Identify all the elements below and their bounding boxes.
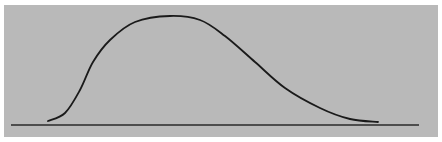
figure-frame [0,0,442,142]
distribution-curve [48,16,378,122]
distribution-plot [0,0,442,142]
